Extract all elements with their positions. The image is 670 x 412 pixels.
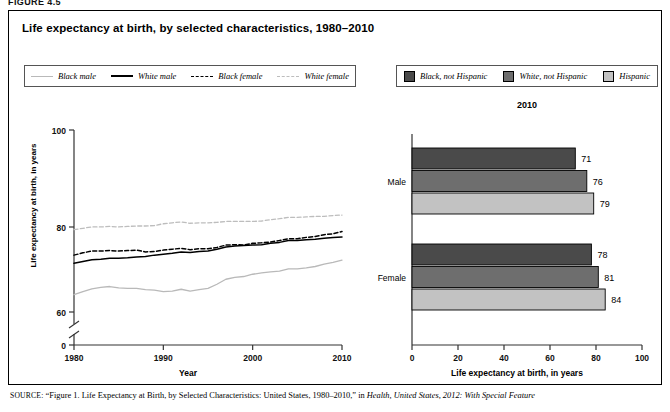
- bar-value-label: 84: [611, 295, 621, 305]
- y-tick-label: 60: [57, 308, 67, 318]
- y-tick-label: 80: [57, 223, 67, 233]
- legend-label: Black, not Hispanic: [420, 71, 487, 81]
- box-swatch-icon: [503, 71, 514, 82]
- bar-female-black-not-hispanic: [412, 244, 591, 265]
- legend-label: White female: [304, 71, 349, 81]
- source-italic: Health, United States, 2012: With Specia…: [367, 391, 535, 400]
- bar-category-label-male: Male: [388, 177, 407, 187]
- legend-label: White male: [138, 71, 176, 81]
- x-tick-label: 1980: [65, 353, 84, 363]
- x-tick-label: 100: [635, 353, 649, 363]
- legend-label: Hispanic: [619, 71, 650, 81]
- bar-female-hispanic: [412, 289, 605, 310]
- figure-label: FIGURE 4.5: [8, 0, 61, 7]
- legend-item-white-male: White male: [111, 71, 176, 81]
- legend-item-white-not-hispanic: White, not Hispanic: [503, 71, 587, 82]
- bar-value-label: 79: [600, 199, 610, 209]
- x-tick-label: 80: [591, 353, 601, 363]
- box-swatch-icon: [404, 71, 415, 82]
- bar-female-white-not-hispanic: [412, 267, 598, 288]
- bar-category-label-female: Female: [378, 273, 407, 283]
- line-series-white-female: [74, 215, 342, 230]
- bar-male-black-not-hispanic: [412, 148, 575, 169]
- legend-item-black-male: Black male: [31, 71, 96, 81]
- line-swatch-icon: [191, 76, 213, 77]
- x-tick-label: 2000: [243, 353, 262, 363]
- bar-value-label: 71: [581, 154, 591, 164]
- legend-label: White, not Hispanic: [519, 71, 587, 81]
- source-text: “Figure 1. Life Expectancy at Birth, by …: [46, 391, 367, 400]
- bar-chart-panel: 2010 020406080100717679Male788184Female …: [372, 96, 662, 381]
- bar-male-white-not-hispanic: [412, 171, 587, 192]
- bar-value-label: 81: [604, 273, 614, 283]
- legend-label: Black female: [218, 71, 262, 81]
- legend-item-white-female: White female: [277, 71, 349, 81]
- legend-item-black-not-hispanic: Black, not Hispanic: [404, 71, 487, 82]
- x-tick-label: 2010: [333, 353, 352, 363]
- line-chart-svg: 060801001980199020002010: [14, 96, 362, 364]
- source-prefix: SOURCE:: [10, 391, 43, 400]
- x-tick-label: 0: [410, 353, 415, 363]
- bar-male-hispanic: [412, 193, 594, 214]
- line-series-black-male: [74, 260, 342, 295]
- legend-label: Black male: [58, 71, 96, 81]
- source-note: SOURCE: “Figure 1. Life Expectancy at Bi…: [10, 390, 662, 401]
- legend-item-hispanic: Hispanic: [603, 71, 650, 82]
- bar-chart-legend: Black, not Hispanic White, not Hispanic …: [396, 65, 658, 87]
- legend-item-black-female: Black female: [191, 71, 262, 81]
- bar-value-label: 78: [597, 250, 607, 260]
- line-chart-x-axis-title: Year: [14, 368, 362, 378]
- y-tick-label: 0: [61, 341, 66, 351]
- bar-chart-title: 2010: [517, 100, 537, 110]
- bar-chart-x-axis-title: Life expectancy at birth, in years: [372, 368, 662, 378]
- bar-chart-svg: 020406080100717679Male788184Female: [372, 96, 662, 364]
- page-title: Life expectancy at birth, by selected ch…: [22, 22, 374, 34]
- line-swatch-icon: [277, 76, 299, 77]
- line-swatch-icon: [31, 76, 53, 77]
- y-tick-label: 100: [52, 126, 66, 136]
- x-tick-label: 40: [499, 353, 509, 363]
- line-chart-panel: Life expectancy at birth, in years 06080…: [14, 96, 362, 381]
- line-swatch-icon: [111, 75, 133, 77]
- x-tick-label: 60: [545, 353, 555, 363]
- line-chart-y-axis-title: Life expectancy at birth, in years: [29, 131, 38, 281]
- box-swatch-icon: [603, 71, 614, 82]
- line-chart-legend: Black male White male Black female White…: [24, 65, 356, 87]
- x-tick-label: 20: [453, 353, 463, 363]
- bar-value-label: 76: [593, 177, 603, 187]
- x-tick-label: 1990: [154, 353, 173, 363]
